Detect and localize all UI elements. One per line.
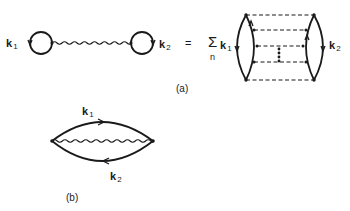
k2-subscript: 2	[166, 43, 170, 52]
k2-symbol: k	[110, 170, 116, 182]
vertical-ellipsis-icon	[278, 48, 281, 63]
k1-symbol: k	[82, 105, 88, 117]
sum-index: n	[210, 53, 215, 62]
sum-symbol: Σ	[208, 34, 217, 49]
feynman-diagram-figure	[0, 0, 350, 211]
panel-a-caption: (a)	[176, 84, 188, 94]
right-vertex-b	[151, 139, 155, 143]
equals-sign: =	[185, 38, 191, 49]
panel-b-k1-label: k1	[82, 106, 94, 117]
lower-propagator	[52, 141, 153, 161]
rhs-k1-label: k1	[220, 40, 232, 51]
wavy-interaction-line-a	[52, 42, 131, 45]
lhs-k1-label: k1	[6, 38, 18, 49]
rhs-k2-label: k2	[329, 40, 341, 51]
k1-symbol: k	[220, 39, 226, 51]
panel-b-k2-label: k2	[110, 171, 122, 182]
k2-subscript: 2	[336, 44, 340, 53]
k2-subscript: 2	[117, 175, 121, 184]
panel-a-ladder	[235, 13, 325, 81]
left-bubble-loop	[30, 32, 52, 54]
k1-subscript: 1	[227, 44, 231, 53]
k1-subscript: 1	[13, 42, 17, 51]
left-vertex-b	[50, 139, 54, 143]
panel-b-caption: (b)	[66, 193, 78, 203]
k2-symbol: k	[159, 38, 165, 50]
ladder-vertex-dots	[244, 13, 315, 81]
lhs-k2-label: k2	[159, 39, 171, 50]
k1-symbol: k	[6, 37, 12, 49]
wavy-interaction-line-b	[52, 140, 153, 143]
k1-subscript: 1	[89, 110, 93, 119]
upper-propagator	[52, 122, 153, 141]
ladder-dashed-rungs	[246, 15, 314, 80]
right-bubble-loop	[131, 32, 153, 54]
k2-symbol: k	[329, 39, 335, 51]
panel-a-lhs	[28, 32, 155, 54]
panel-b-diagram	[50, 119, 155, 164]
ladder-right-propagator-inner	[306, 15, 314, 80]
